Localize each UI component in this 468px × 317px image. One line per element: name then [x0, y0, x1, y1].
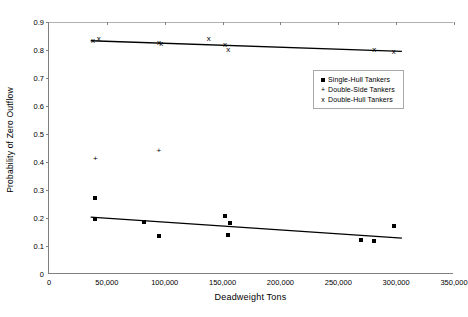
- y-tick-mark: [46, 162, 49, 163]
- legend-item-double-hull: x Double-Hull Tankers: [318, 95, 399, 104]
- data-point-single-hull: [392, 224, 396, 228]
- x-tick-label: 150,000: [209, 278, 236, 287]
- data-point-single-hull: [372, 239, 376, 243]
- x-marker-icon: x: [318, 96, 328, 103]
- chart-legend: Single-Hull Tankers + Double-Side Tanker…: [313, 70, 404, 109]
- legend-label-single-hull: Single-Hull Tankers: [328, 76, 390, 83]
- data-point-double-hull: x: [205, 35, 213, 43]
- y-tick-label: 0.4: [34, 158, 44, 167]
- y-tick-label: 0.1: [34, 242, 44, 251]
- x-tick-mark: [107, 22, 108, 25]
- y-tick-label: 0.9: [34, 18, 44, 27]
- x-tick-label: 300,000: [383, 278, 410, 287]
- y-tick-mark: [46, 218, 49, 219]
- y-tick-label: 0.3: [34, 186, 44, 195]
- y-tick-mark: [46, 134, 49, 135]
- plus-glyph: +: [321, 86, 325, 93]
- data-point-double-hull: x: [157, 40, 165, 48]
- data-point-single-hull: [93, 217, 97, 221]
- data-point-single-hull: [223, 214, 227, 218]
- x-tick-mark: [280, 22, 281, 25]
- y-tick-label: 0.5: [34, 130, 44, 139]
- y-tick-mark: [46, 22, 49, 23]
- legend-item-double-side: + Double-Side Tankers: [318, 85, 399, 94]
- y-tick-label: 0: [40, 270, 44, 279]
- data-point-double-hull: x: [95, 35, 103, 43]
- x-tick-label: 350,000: [440, 278, 467, 287]
- trend-line: [91, 41, 402, 52]
- x-tick-mark: [396, 22, 397, 25]
- data-point-single-hull: [359, 238, 363, 242]
- x-glyph: x: [321, 96, 325, 103]
- x-tick-mark: [338, 22, 339, 25]
- x-tick-label: 200,000: [267, 278, 294, 287]
- legend-label-double-hull: Double-Hull Tankers: [328, 96, 393, 103]
- y-tick-mark: [46, 190, 49, 191]
- y-axis-title-text: Probability of Zero Outflow: [5, 87, 15, 193]
- data-point-single-hull: [228, 221, 232, 225]
- x-tick-label: 50,000: [95, 278, 118, 287]
- legend-label-double-side: Double-Side Tankers: [328, 86, 395, 93]
- plot-area: 00.10.20.30.40.50.60.70.80.9050,000100,0…: [48, 22, 453, 274]
- data-point-double-hull: x: [390, 48, 398, 56]
- data-point-single-hull: [157, 234, 161, 238]
- x-tick-mark: [165, 22, 166, 25]
- y-tick-label: 0.6: [34, 102, 44, 111]
- data-point-single-hull: [93, 196, 97, 200]
- y-axis-title: Probability of Zero Outflow: [0, 0, 20, 280]
- y-tick-mark: [46, 246, 49, 247]
- data-point-double-hull: x: [224, 46, 232, 54]
- x-tick-mark: [223, 22, 224, 25]
- y-tick-label: 0.2: [34, 214, 44, 223]
- data-point-single-hull: [142, 220, 146, 224]
- x-tick-label: 0: [47, 278, 51, 287]
- y-tick-mark: [46, 106, 49, 107]
- y-tick-mark: [46, 78, 49, 79]
- legend-item-single-hull: Single-Hull Tankers: [318, 75, 399, 84]
- y-tick-label: 0.7: [34, 74, 44, 83]
- x-tick-label: 250,000: [325, 278, 352, 287]
- data-point-double-side: +: [91, 155, 99, 163]
- data-point-double-side: +: [155, 147, 163, 155]
- y-tick-label: 0.8: [34, 46, 44, 55]
- x-tick-mark: [454, 22, 455, 25]
- data-point-double-hull: x: [370, 46, 378, 54]
- square-marker-icon: [318, 78, 328, 82]
- plus-marker-icon: +: [318, 86, 328, 93]
- trend-lines-layer: [49, 22, 454, 274]
- x-axis-title: Deadweight Tons: [48, 292, 453, 302]
- y-tick-mark: [46, 50, 49, 51]
- trend-line: [91, 217, 402, 238]
- data-point-single-hull: [226, 233, 230, 237]
- x-tick-label: 100,000: [151, 278, 178, 287]
